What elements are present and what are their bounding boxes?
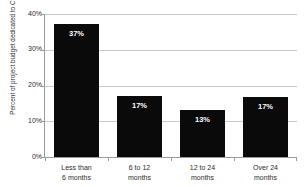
x-tick-mark-0: [45, 157, 46, 161]
bar-12-to-24-months[interactable]: 13%: [180, 110, 225, 157]
bar-chart-screenshot: CM BUDGETS Percent of project budget ded…: [0, 0, 304, 187]
x-category-label-3-line-1: Over 24: [234, 163, 297, 173]
x-category-label-2: 12 to 24 months: [171, 163, 234, 182]
bar-6-to-12-months[interactable]: 17%: [117, 96, 162, 157]
x-category-label-2-line-2: months: [171, 173, 234, 183]
x-category-label-3-line-2: months: [234, 173, 297, 183]
bar-value-label-2: 13%: [180, 115, 225, 124]
bar-value-label-1: 17%: [117, 101, 162, 110]
bar-value-label-0: 37%: [54, 29, 99, 38]
x-category-label-2-line-1: 12 to 24: [171, 163, 234, 173]
x-category-label-0: Less than 6 months: [45, 163, 108, 182]
y-tick-label-30: 30%: [16, 45, 42, 53]
x-category-label-0-line-2: 6 months: [45, 173, 108, 183]
plot-area: 37% 17% 13% 17%: [45, 14, 297, 157]
x-tick-mark-3: [234, 157, 235, 161]
y-tick-label-20: 20%: [16, 81, 42, 89]
chart-title-cutoff: CM BUDGETS: [0, 0, 304, 5]
x-category-label-1-line-1: 6 to 12: [108, 163, 171, 173]
x-tick-mark-2: [171, 157, 172, 161]
y-tick-label-0: 0%: [16, 153, 42, 161]
y-tick-label-10: 10%: [16, 117, 42, 125]
x-category-label-0-line-1: Less than: [45, 163, 108, 173]
x-tick-mark-4: [296, 157, 297, 161]
bar-over-24-months[interactable]: 17%: [243, 97, 288, 157]
x-category-label-1: 6 to 12 months: [108, 163, 171, 182]
x-tick-mark-1: [108, 157, 109, 161]
x-category-label-1-line-2: months: [108, 173, 171, 183]
bar-value-label-3: 17%: [243, 102, 288, 111]
y-tick-label-40: 40%: [16, 10, 42, 18]
y-axis-tick-labels: 40% 30% 20% 10% 0%: [12, 0, 42, 187]
chart-title-text: CM BUDGETS: [0, 0, 304, 2]
bar-less-than-6-months[interactable]: 37%: [54, 24, 99, 157]
gridline-40: [45, 14, 297, 15]
x-category-label-3: Over 24 months: [234, 163, 297, 182]
